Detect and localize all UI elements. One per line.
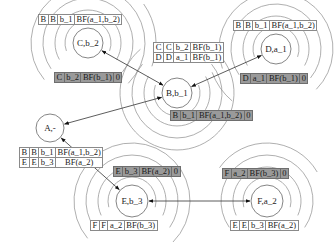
network-diagram: C,b_2B,b_1D,a_1A,-E,b_3F,a_2 [0, 0, 335, 245]
table-cell: C [154, 43, 164, 53]
table-cell: E [240, 221, 249, 231]
table-cell: BF(a_2) [266, 221, 298, 231]
node-label: A,- [44, 123, 56, 133]
table-cell: B [243, 21, 253, 31]
node-f: F,a_2 [251, 185, 283, 217]
table-cell: BF(a_2) [139, 167, 171, 177]
table-row: Fa_2BF(b_3)0 [223, 169, 289, 179]
table-cell: BF(a_1,b_2) [270, 21, 317, 31]
table-cell: a_2 [108, 221, 124, 231]
node-label: B,b_1 [166, 88, 188, 98]
table-cell: C [55, 73, 65, 83]
node-label: C,b_2 [77, 38, 99, 48]
table-row: DDa_1BF(b_1) [154, 53, 224, 63]
table-cell: E [29, 158, 39, 168]
table-cell: b_1 [180, 111, 197, 121]
state-table-e: Eb_3BF(a_2)0 [113, 166, 181, 177]
table-row: BBb_1BF(a_1,b_2) [234, 21, 317, 31]
state-table-c: Cb_2BF(b_1)0 [54, 72, 122, 83]
routing-table-e: FFa_2BF(b_3) [90, 220, 158, 231]
table-row: BBb_1BF(a_1,b_2) [39, 15, 122, 25]
table-cell: B [171, 111, 181, 121]
table-cell: b_3 [39, 158, 56, 168]
table-cell: BF(a_1,b_2) [56, 148, 103, 158]
table-cell: a_2 [231, 169, 247, 179]
table-cell: B [39, 15, 49, 25]
table-cell: C [164, 43, 174, 53]
table-cell: E [114, 167, 123, 177]
node-label: D,a_1 [265, 44, 287, 54]
state-table-f: Fa_2BF(b_3)0 [222, 168, 289, 179]
table-cell: D [164, 53, 174, 63]
state-table-d: Da_1BF(b_1)0 [240, 73, 308, 84]
table-cell: b_1 [253, 21, 270, 31]
table-row: FFa_2BF(b_3) [91, 221, 158, 231]
table-cell: a_1 [251, 74, 267, 84]
table-cell: B [48, 15, 58, 25]
table-row: Cb_2BF(b_1)0 [55, 73, 122, 83]
table-cell: b_3 [249, 221, 266, 231]
table-cell: b_1 [58, 15, 75, 25]
table-cell: b_2 [174, 43, 191, 53]
table-cell: BF(a_2) [56, 158, 103, 168]
table-cell: E [20, 158, 30, 168]
routing-table-f: EEb_3BF(a_2) [230, 220, 299, 231]
routing-table-d: BBb_1BF(a_1,b_2) [233, 20, 317, 31]
routing-table-a: BBb_1BF(a_1,b_2)EEb_3BF(a_2) [19, 147, 103, 168]
table-cell: BF(b_1) [191, 43, 224, 53]
range-arc-d-4 [212, 72, 232, 101]
node-a: A,- [36, 114, 64, 142]
table-cell: BF(b_3) [124, 221, 157, 231]
table-cell: 0 [172, 167, 180, 177]
table-cell: D [241, 74, 251, 84]
table-cell: b_2 [64, 73, 81, 83]
table-cell: B [234, 21, 244, 31]
routing-table-b: CCb_2BF(b_1)DDa_1BF(b_1) [153, 42, 224, 63]
table-cell: F [223, 169, 232, 179]
table-cell: 0 [280, 169, 288, 179]
table-cell: BF(b_1) [267, 74, 300, 84]
table-row: Da_1BF(b_1)0 [241, 74, 308, 84]
table-cell: BF(a_1,b_2) [75, 15, 122, 25]
node-label: F,a_2 [257, 196, 277, 206]
node-label: E,b_3 [121, 196, 143, 206]
table-row: CCb_2BF(b_1) [154, 43, 224, 53]
state-table-b: Bb_1BF(a_1,b_2)0 [170, 110, 253, 121]
routing-table-c: BBb_1BF(a_1,b_2) [38, 14, 122, 25]
table-cell: 0 [114, 73, 122, 83]
table-cell: E [231, 221, 240, 231]
table-row: Eb_3BF(a_2)0 [114, 167, 181, 177]
table-row: BBb_1BF(a_1,b_2) [20, 148, 103, 158]
table-cell: B [29, 148, 39, 158]
table-cell: BF(b_3) [248, 169, 281, 179]
table-cell: BF(b_1) [81, 73, 114, 83]
table-cell: BF(b_1) [191, 53, 224, 63]
node-b: B,b_1 [162, 78, 192, 108]
node-d: D,a_1 [261, 34, 291, 64]
node-e: E,b_3 [116, 185, 148, 217]
table-cell: B [20, 148, 30, 158]
table-cell: 0 [244, 111, 252, 121]
edge-b-a [65, 97, 162, 124]
table-row: Bb_1BF(a_1,b_2)0 [171, 111, 253, 121]
table-cell: 0 [300, 74, 308, 84]
table-row: EEb_3BF(a_2) [231, 221, 299, 231]
table-cell: b_1 [39, 148, 56, 158]
table-cell: D [154, 53, 164, 63]
table-cell: F [99, 221, 108, 231]
table-row: EEb_3BF(a_2) [20, 158, 103, 168]
table-cell: b_3 [123, 167, 140, 177]
node-c: C,b_2 [73, 28, 103, 58]
table-cell: a_1 [174, 53, 191, 63]
table-cell: F [91, 221, 100, 231]
table-cell: BF(a_1,b_2) [197, 111, 244, 121]
